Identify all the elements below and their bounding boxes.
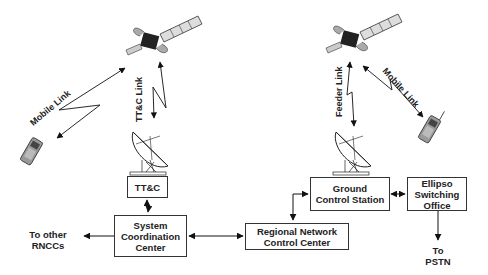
satellite-icon <box>326 14 402 53</box>
ttc-box: TT&C <box>127 176 168 198</box>
ttc-scc-link <box>147 200 149 212</box>
gcs-line-2: Control Station <box>316 194 385 205</box>
eso-line-2: Switching <box>415 189 460 200</box>
feeder-link <box>347 62 354 126</box>
satellite-dish-icon <box>333 132 371 175</box>
mobile-phone-icon <box>418 106 446 143</box>
system-coordination-center-box: System Coordination Center <box>114 215 187 257</box>
ellipso-switching-office-box: Ellipso Switching Office <box>407 177 467 211</box>
mobile-link-left <box>57 68 125 138</box>
ttc-link <box>153 62 166 118</box>
to-pstn-label: To PSTN <box>418 245 458 267</box>
gcs-line-1: Ground <box>333 183 367 194</box>
scc-line-2: Coordination <box>121 231 180 242</box>
rncc-gcs-link <box>293 194 308 220</box>
to-pstn-line-1: To <box>418 245 458 256</box>
regional-network-control-center-box: Regional Network Control Center <box>245 223 349 250</box>
ttc-box-label: TT&C <box>135 182 160 193</box>
eso-line-3: Office <box>424 200 451 211</box>
satellite-icon <box>126 16 202 55</box>
scc-line-3: Center <box>135 242 165 253</box>
mobile-phone-icon <box>20 137 43 166</box>
to-other-rnccs-label: To other RNCCs <box>18 229 78 251</box>
ground-control-station-box: Ground Control Station <box>310 177 390 211</box>
to-other-rnccs-line-1: To other <box>18 229 78 240</box>
eso-line-1: Ellipso <box>421 178 452 189</box>
to-pstn-line-2: PSTN <box>418 256 458 267</box>
ellipso-system-diagram: Mobile Link TT&C Link Feeder Link Mobile… <box>0 0 488 275</box>
satellite-dish-icon <box>130 132 168 175</box>
rncc-line-2: Control Center <box>264 237 331 248</box>
to-other-rnccs-line-2: RNCCs <box>18 240 78 251</box>
ttc-link-label: TT&C Link <box>134 77 144 122</box>
scc-line-1: System <box>134 220 168 231</box>
rncc-line-1: Regional Network <box>257 226 337 237</box>
feeder-link-label: Feeder Link <box>334 66 344 117</box>
